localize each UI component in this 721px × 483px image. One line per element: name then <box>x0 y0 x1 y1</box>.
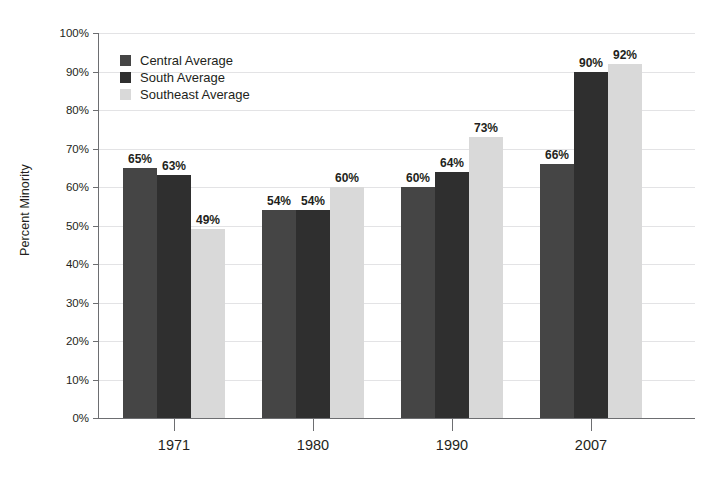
y-axis-title-text: Percent Minority <box>18 164 32 256</box>
legend-item-label: Central Average <box>140 53 233 68</box>
x-axis-tick <box>174 418 175 431</box>
bar: 73% <box>469 137 503 418</box>
y-axis-tick-label: 10% <box>66 374 89 386</box>
bar-value-label: 49% <box>196 213 220 227</box>
legend-swatch-icon <box>120 72 131 83</box>
x-axis-category-label: 1980 <box>297 437 329 453</box>
bar: 65% <box>123 168 157 418</box>
legend-item-label: Southeast Average <box>140 87 250 102</box>
x-axis-category-label: 1990 <box>436 437 468 453</box>
x-axis-category-label: 1971 <box>158 437 190 453</box>
y-axis-tick-label: 100% <box>60 27 89 39</box>
y-axis-tick <box>93 110 98 111</box>
legend-item-label: South Average <box>140 70 225 85</box>
x-axis-tick <box>452 418 453 431</box>
legend-swatch-icon <box>120 55 131 66</box>
x-axis-tick <box>313 418 314 431</box>
legend-item: Central Average <box>120 52 250 69</box>
bar-value-label: 64% <box>440 156 464 170</box>
bar: 54% <box>296 210 330 418</box>
y-axis-tick <box>93 303 98 304</box>
bar: 49% <box>191 229 225 418</box>
legend: Central AverageSouth AverageSoutheast Av… <box>120 52 250 103</box>
gridline <box>99 33 695 34</box>
bar: 90% <box>574 72 608 419</box>
bar: 60% <box>401 187 435 418</box>
legend-item: South Average <box>120 69 250 86</box>
bar: 92% <box>608 64 642 418</box>
y-axis-tick-label: 30% <box>66 297 89 309</box>
legend-item: Southeast Average <box>120 86 250 103</box>
bar-chart: Percent Minority 0%10%20%30%40%50%60%70%… <box>0 0 721 483</box>
x-axis-line <box>98 418 695 419</box>
y-axis-tick-label: 80% <box>66 104 89 116</box>
legend-swatch-icon <box>120 89 131 100</box>
bar: 66% <box>540 164 574 418</box>
y-axis-tick-label: 50% <box>66 220 89 232</box>
bar-value-label: 73% <box>474 121 498 135</box>
bar-value-label: 54% <box>301 194 325 208</box>
y-axis-tick <box>93 264 98 265</box>
y-axis-tick-label: 40% <box>66 258 89 270</box>
y-axis-title: Percent Minority <box>10 0 40 420</box>
bar-value-label: 60% <box>335 171 359 185</box>
y-axis-tick <box>93 33 98 34</box>
bar: 54% <box>262 210 296 418</box>
bar: 63% <box>157 175 191 418</box>
bar-value-label: 90% <box>579 56 603 70</box>
bar-value-label: 54% <box>267 194 291 208</box>
bar: 64% <box>435 172 469 418</box>
y-axis-tick <box>93 341 98 342</box>
bar-value-label: 60% <box>406 171 430 185</box>
y-axis-tick-label: 90% <box>66 66 89 78</box>
bar-value-label: 66% <box>545 148 569 162</box>
y-axis-tick <box>93 380 98 381</box>
bar: 60% <box>330 187 364 418</box>
y-axis-tick <box>93 226 98 227</box>
y-axis-tick-label: 70% <box>66 143 89 155</box>
y-axis-tick-label: 20% <box>66 335 89 347</box>
y-axis-tick-label: 60% <box>66 181 89 193</box>
bar-value-label: 63% <box>162 159 186 173</box>
bar-value-label: 92% <box>613 48 637 62</box>
y-axis-tick <box>93 72 98 73</box>
y-axis-tick <box>93 149 98 150</box>
bar-value-label: 65% <box>128 152 152 166</box>
y-axis-tick <box>93 187 98 188</box>
y-axis-tick <box>93 418 98 419</box>
x-axis-category-label: 2007 <box>575 437 607 453</box>
x-axis-tick <box>591 418 592 431</box>
y-axis-tick-label: 0% <box>72 412 89 424</box>
